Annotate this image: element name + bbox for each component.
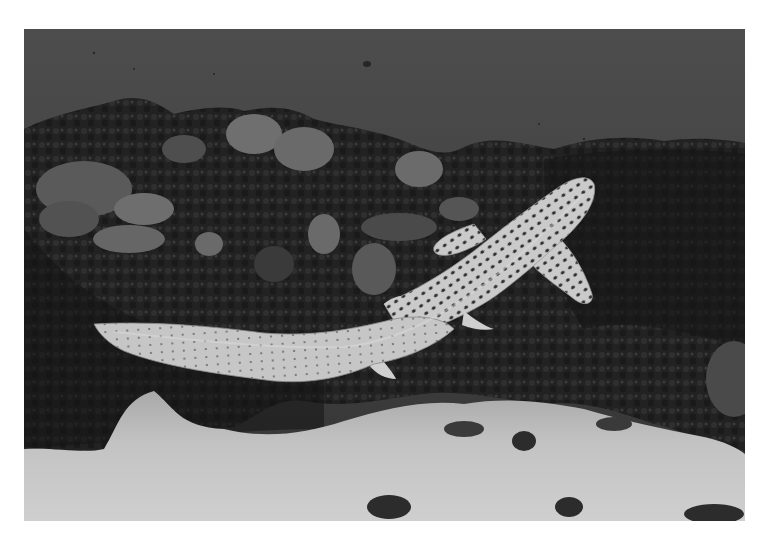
underwater-scene (24, 29, 745, 521)
photograph (24, 29, 745, 521)
